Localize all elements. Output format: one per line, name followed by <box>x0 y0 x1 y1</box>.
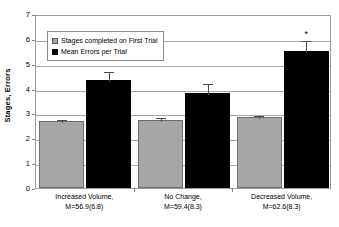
y-tick-label: 3 <box>16 110 30 118</box>
x-axis-separator-tick <box>232 188 233 192</box>
bar-errors-2 <box>284 51 329 188</box>
y-axis-title: Stages, Errors <box>0 0 14 190</box>
x-axis-group-label-1: No Change,M=59.4(8.3) <box>134 192 233 211</box>
legend-swatch-black-icon <box>52 49 58 55</box>
legend-label-errors: Mean Errors per Trial <box>61 48 127 56</box>
x-axis-labels: Increased Volume,M=56.9(6.8)No Change,M=… <box>35 192 331 222</box>
y-tick-label: 1 <box>16 160 30 168</box>
x-axis-separator-tick <box>134 188 135 192</box>
bar-stages-2 <box>237 117 282 188</box>
y-tick-label: 5 <box>16 61 30 69</box>
x-label-mean: M=59.4(8.3) <box>134 202 233 212</box>
error-bar-cap <box>156 118 166 119</box>
legend-swatch-gray-icon <box>52 38 58 44</box>
x-axis-group-label-2: Decreased Volume,M=62.6(8.3) <box>232 192 331 211</box>
x-axis-group-label-0: Increased Volume,M=56.9(6.8) <box>35 192 134 211</box>
y-tick-label: 2 <box>16 135 30 143</box>
x-label-condition: Increased Volume, <box>35 192 134 202</box>
bar-stages-1 <box>138 120 183 188</box>
x-label-condition: Decreased Volume, <box>232 192 331 202</box>
legend-item-stages: Stages completed on First Trial <box>52 35 158 46</box>
y-tick-label: 4 <box>16 86 30 94</box>
bar-chart: Stages, Errors 01234567 * Stages complet… <box>0 0 339 227</box>
y-tick-label: 0 <box>16 185 30 193</box>
y-tick-label: 6 <box>16 36 30 44</box>
error-bar-stem <box>306 41 307 53</box>
y-axis-tick-labels: 01234567 <box>16 0 30 227</box>
legend-item-errors: Mean Errors per Trial <box>52 46 158 57</box>
error-bar-cap <box>203 84 213 85</box>
chart-legend: Stages completed on First Trial Mean Err… <box>47 31 164 61</box>
error-bar-cap <box>301 41 311 42</box>
y-axis-title-text: Stages, Errors <box>3 68 12 122</box>
error-bar-stem <box>208 84 209 94</box>
error-bar-cap <box>57 120 67 121</box>
x-label-mean: M=62.6(8.3) <box>232 202 331 212</box>
y-tick-label: 7 <box>16 11 30 19</box>
x-label-mean: M=56.9(6.8) <box>35 202 134 212</box>
x-label-condition: No Change, <box>134 192 233 202</box>
bar-errors-1 <box>185 93 230 188</box>
bar-errors-0 <box>86 80 131 188</box>
bar-stages-0 <box>39 121 84 188</box>
error-bar-cap <box>254 116 264 117</box>
legend-label-stages: Stages completed on First Trial <box>61 37 158 45</box>
significance-asterisk: * <box>304 30 308 39</box>
error-bar-cap <box>104 72 114 73</box>
y-tick-mark <box>32 189 35 190</box>
error-bar-stem <box>109 72 110 81</box>
